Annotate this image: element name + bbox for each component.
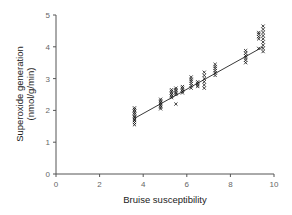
y-tick-label: 5 <box>46 11 51 20</box>
x-marker <box>203 83 206 86</box>
scatter-chart: Superoxide generation (nmol/g/min) Bruis… <box>0 0 292 215</box>
x-marker <box>190 75 193 78</box>
tick-labels: 0123450246810 <box>46 11 279 189</box>
x-tick-label: 2 <box>97 180 102 189</box>
x-marker <box>262 31 265 34</box>
x-tick-label: 4 <box>141 180 146 189</box>
x-marker <box>262 40 265 43</box>
y-tick-label: 4 <box>46 43 51 52</box>
y-tick-label: 0 <box>46 170 51 179</box>
x-marker <box>203 87 206 90</box>
y-tick-label: 3 <box>46 75 51 84</box>
x-marker <box>244 49 247 52</box>
x-tick-label: 10 <box>270 180 279 189</box>
y-axis-label-line1: Superoxide generation <box>14 46 25 142</box>
x-tick-label: 6 <box>185 180 190 189</box>
x-axis-label: Bruise susceptibility <box>123 194 207 205</box>
y-axis-label-line2: (nmol/g/min) <box>25 68 36 121</box>
x-marker <box>262 25 265 28</box>
x-tick-label: 0 <box>54 180 59 189</box>
x-marker <box>203 80 206 83</box>
x-marker <box>174 102 177 105</box>
data-points <box>133 25 265 127</box>
x-marker <box>214 63 217 66</box>
y-tick-label: 2 <box>46 106 51 115</box>
x-marker <box>262 37 265 40</box>
x-marker <box>262 34 265 37</box>
x-marker <box>203 71 206 74</box>
x-marker <box>262 28 265 31</box>
axes <box>53 15 274 177</box>
y-axis-label: Superoxide generation (nmol/g/min) <box>14 46 36 142</box>
y-tick-label: 1 <box>46 138 51 147</box>
x-marker <box>262 44 265 47</box>
x-marker <box>262 50 265 53</box>
x-tick-label: 8 <box>228 180 233 189</box>
x-marker <box>203 74 206 77</box>
